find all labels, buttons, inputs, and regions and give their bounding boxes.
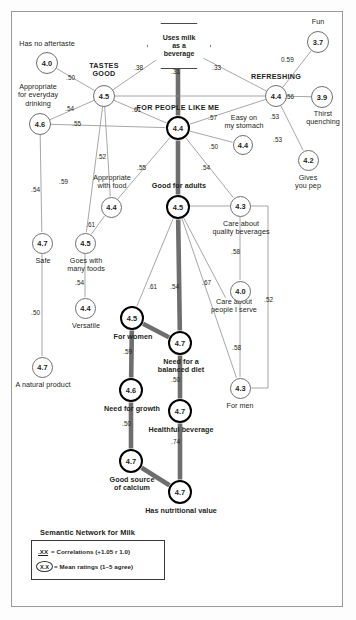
edge-weight-label: .55 xyxy=(72,120,81,127)
node-label-has-nutritional-value: Has nutritional value xyxy=(135,507,227,515)
legend-correlation-text: = Correlations (+1.05 r 1.0) xyxy=(51,548,130,555)
edge-weight-label: .61 xyxy=(132,106,141,113)
edge-weight-label: .55 xyxy=(137,164,146,171)
node-label-healthful-beverage: Healthful beverage xyxy=(139,426,223,434)
node-label-good-for-adults: Good for adults xyxy=(136,182,222,190)
edge-weight-label: .54 xyxy=(170,283,179,290)
node-label-good-source-of-calcium: Good source of calcium xyxy=(101,476,163,493)
edge-appropriate_everyday-to-for_people_like_me xyxy=(51,124,166,127)
edge-weight-label: .38 xyxy=(134,64,143,71)
node-need-for-a-balanced-diet[interactable]: 4.7 xyxy=(168,331,192,355)
legend-title: Semantic Network for Milk xyxy=(40,528,135,537)
node-label-gives-you-pep: Gives you pep xyxy=(282,174,334,191)
node-for-women[interactable]: 4.5 xyxy=(120,306,144,330)
node-label-need-for-a-balanced-diet: Need for a balanced diet xyxy=(152,358,210,375)
edge-weight-label: .33 xyxy=(212,64,221,71)
node-label-appropriate-with-food: Appropriate with food xyxy=(81,174,143,191)
node-healthful-beverage[interactable]: 4.7 xyxy=(168,399,192,423)
node-label-has-no-aftertaste: Has no aftertaste xyxy=(7,40,87,48)
node-refreshing[interactable]: 4.4 xyxy=(265,85,287,107)
node-label-fun: Fun xyxy=(296,18,340,26)
node-label-need-for-growth: Need for growth xyxy=(92,405,172,413)
edge-weight-label: .52 xyxy=(264,296,273,303)
edge-weight-label: .50 xyxy=(31,309,40,316)
node-label-care-about-quality-beverages: Care about quality beverages xyxy=(204,220,278,237)
node-easy-on-my-stomach[interactable]: 4.4 xyxy=(233,135,253,155)
edge-weight-label: .53 xyxy=(270,113,279,120)
node-label-refreshing: REFRESHING xyxy=(240,73,312,81)
node-label-a-natural-product: A natural product xyxy=(5,381,81,389)
node-label-tastes-good: TASTES GOOD xyxy=(78,62,130,79)
node-need-for-growth[interactable]: 4.6 xyxy=(119,378,143,402)
node-fun[interactable]: 3.7 xyxy=(307,31,329,53)
diagram-page: Uses milk as a beverage 4.0 Has no after… xyxy=(0,0,356,620)
legend-mean-rating-text: = Mean ratings (1–5 agree) xyxy=(54,563,133,570)
node-appropriate-for-everyday-drinking[interactable]: 4.6 xyxy=(29,113,51,135)
node-label-easy-on-my-stomach: Easy on my stomach xyxy=(214,114,274,131)
edge-weight-label: .54 xyxy=(201,164,210,171)
node-label-thirst-quenching: Thirst quenching xyxy=(295,110,351,127)
node-good-source-of-calcium[interactable]: 4.7 xyxy=(119,449,143,473)
edge-weight-label: .50 xyxy=(122,420,131,427)
edge-weight-label: .54 xyxy=(65,105,74,112)
legend-mean-rating-key: X.X xyxy=(36,561,53,572)
edge-weight-label: .67 xyxy=(202,279,211,286)
edge-for_people_like_me-to-easy_on_stomach xyxy=(190,131,232,142)
node-safe[interactable]: 4.7 xyxy=(32,233,53,254)
node-has-no-aftertaste[interactable]: 4.0 xyxy=(36,52,58,74)
node-a-natural-product[interactable]: 4.7 xyxy=(32,357,53,378)
node-good-for-adults[interactable]: 4.5 xyxy=(166,195,190,219)
node-tastes-good[interactable]: 4.5 xyxy=(93,85,115,107)
node-label-appropriate-for-everyday-drinking: Appropriate for everyday drinking xyxy=(5,83,71,108)
edge-weight-label: .50 xyxy=(209,143,218,150)
edge-weight-label: .57 xyxy=(208,114,217,121)
node-right-4-0[interactable]: 4.0 xyxy=(230,281,251,302)
edge-weight-label: .50 xyxy=(66,74,75,81)
edge-weight-label: 0.59 xyxy=(281,56,294,63)
edge-weight-label: .52 xyxy=(97,153,106,160)
node-goes-with-many-foods[interactable]: 4.5 xyxy=(75,233,96,254)
edge-weight-label: .58 xyxy=(232,344,241,351)
edge-good_for_adults-to-need_balanced_diet xyxy=(178,219,180,330)
edge-weight-label: .31 xyxy=(171,68,180,75)
node-label-care-about-people-i-serve: Care about people I serve xyxy=(203,298,265,315)
node-care-about-quality-beverages[interactable]: 4.3 xyxy=(230,196,251,217)
edge-weight-label: .58 xyxy=(231,248,240,255)
node-has-nutritional-value[interactable]: 4.7 xyxy=(168,480,192,504)
legend-correlation-key: .XX xyxy=(38,548,48,555)
edge-weight-label: .61 xyxy=(86,221,95,228)
edge-weight-label: .59 xyxy=(59,178,68,185)
node-versatile[interactable]: 4.4 xyxy=(75,298,96,319)
edge-weight-label: .50 xyxy=(171,376,180,383)
node-label-goes-with-many-foods: Goes with many foods xyxy=(57,257,115,274)
edge-weight-label: .74 xyxy=(171,438,180,445)
edge-weight-label: .53 xyxy=(273,136,282,143)
edge-weight-label: .59 xyxy=(123,348,132,355)
node-gives-you-pep[interactable]: 4.2 xyxy=(298,150,319,171)
node-appropriate-with-food[interactable]: 4.4 xyxy=(101,197,122,218)
edge-weight-label: .54 xyxy=(75,279,84,286)
edge-weight-label: .54 xyxy=(31,186,40,193)
node-for-people-like-me[interactable]: 4.4 xyxy=(166,116,190,140)
node-label-versatile: Versatile xyxy=(62,322,110,330)
node-for-men[interactable]: 4.3 xyxy=(230,378,251,399)
node-label-for-women: For women xyxy=(104,333,162,341)
edge-good_for_adults-to-for_women xyxy=(137,219,173,307)
node-label-for-men: For men xyxy=(217,402,263,410)
edge-weight-label: .56 xyxy=(285,93,294,100)
node-thirst-quenching[interactable]: 3.9 xyxy=(311,86,333,108)
edge-appropriate_everyday-to-safe xyxy=(40,135,42,232)
legend-box xyxy=(31,540,165,580)
edge-weight-label: .61 xyxy=(148,283,157,290)
